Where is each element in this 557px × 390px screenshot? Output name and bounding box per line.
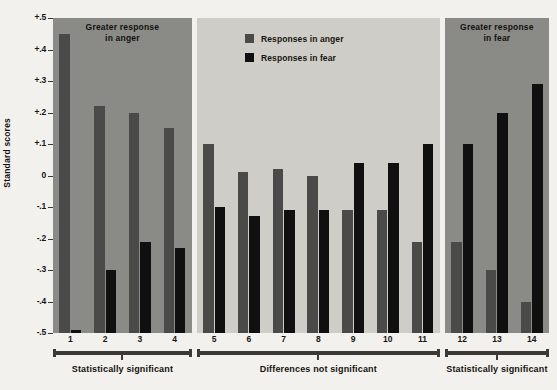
- bracket-center-tick: [121, 355, 123, 360]
- bar-5-fear: [215, 207, 225, 333]
- x-tick-label: 2: [95, 334, 115, 344]
- y-tick-label: 0: [18, 170, 46, 182]
- x-tick-label: 11: [413, 334, 433, 344]
- x-tick-label: 14: [522, 334, 542, 344]
- bar-4-anger: [164, 128, 174, 333]
- bar-7-anger: [273, 169, 283, 333]
- panel-title-left: Greater responsein anger: [53, 22, 192, 44]
- y-tick-label: +.4: [18, 44, 46, 56]
- bracket-left: [53, 349, 192, 357]
- y-tick-label: -.2: [18, 233, 46, 245]
- bracket-cap-right: [189, 349, 192, 357]
- x-tick-label: 7: [274, 334, 294, 344]
- bar-10-anger: [377, 210, 387, 333]
- bar-11-anger: [412, 242, 422, 333]
- group-label-right: Statistically significant: [446, 364, 547, 374]
- bar-13-fear: [497, 113, 507, 334]
- x-tick-label: 13: [487, 334, 507, 344]
- panel-title-line-2: in fear: [445, 33, 549, 44]
- x-tick-label: 10: [378, 334, 398, 344]
- bar-14-fear: [532, 84, 542, 333]
- bar-13-anger: [486, 270, 496, 333]
- legend-swatch-icon: [245, 34, 254, 43]
- bar-12-fear: [463, 144, 473, 333]
- bar-1-anger: [59, 34, 69, 333]
- legend-item-anger: Responses in anger: [245, 31, 344, 46]
- y-tick-label: -.5: [18, 327, 46, 339]
- y-axis-title: Standard scores: [2, 118, 16, 188]
- bar-10-fear: [388, 163, 398, 333]
- chart-legend: Responses in angerResponses in fear: [245, 31, 344, 69]
- legend-label: Responses in anger: [261, 34, 344, 44]
- x-tick-label: 5: [204, 334, 224, 344]
- bracket-cap-left: [53, 349, 56, 357]
- x-tick-label: 12: [452, 334, 472, 344]
- y-tick-label: -.1: [18, 201, 46, 213]
- bracket-middle: [197, 349, 440, 357]
- bracket-center-tick: [317, 355, 319, 360]
- bar-2-fear: [106, 270, 116, 333]
- bar-1-fear: [71, 330, 81, 333]
- x-axis-labels: 1234567891011121314: [53, 334, 549, 348]
- x-tick-label: 3: [130, 334, 150, 344]
- x-tick-label: 9: [343, 334, 363, 344]
- bar-8-anger: [307, 176, 317, 334]
- bar-6-anger: [238, 172, 248, 333]
- panel-title-line-1: Greater response: [53, 22, 192, 33]
- bracket-cap-right: [437, 349, 440, 357]
- x-tick-label: 8: [308, 334, 328, 344]
- legend-swatch-icon: [245, 53, 254, 62]
- bracket-center-tick: [496, 355, 498, 360]
- bar-chart: Standard scores +.5+.4+.3+.2+.10-.1-.2-.…: [0, 0, 557, 390]
- bar-6-fear: [249, 216, 259, 333]
- group-brackets: [53, 349, 549, 361]
- y-tick-label: +.3: [18, 75, 46, 87]
- bar-5-anger: [203, 144, 213, 333]
- bracket-cap-right: [546, 349, 549, 357]
- panel-title-line-1: Greater response: [445, 22, 549, 33]
- x-tick-label: 6: [239, 334, 259, 344]
- legend-item-fear: Responses in fear: [245, 50, 344, 65]
- panel-title-line-2: in anger: [53, 33, 192, 44]
- bracket-cap-left: [445, 349, 448, 357]
- bar-9-anger: [342, 210, 352, 333]
- bar-2-anger: [94, 106, 104, 333]
- x-tick-label: 4: [165, 334, 185, 344]
- bar-12-anger: [451, 242, 461, 333]
- bracket-cap-left: [197, 349, 200, 357]
- bar-8-fear: [319, 210, 329, 333]
- x-tick-label: 1: [60, 334, 80, 344]
- group-significance-labels: Statistically significantDifferences not…: [53, 364, 549, 380]
- y-tick-label: +.5: [18, 12, 46, 24]
- bar-3-fear: [140, 242, 150, 333]
- bar-14-anger: [521, 302, 531, 334]
- group-label-left: Statistically significant: [72, 364, 173, 374]
- y-tick-label: +.2: [18, 107, 46, 119]
- bracket-right: [445, 349, 549, 357]
- bar-9-fear: [354, 163, 364, 333]
- y-tick-label: -.3: [18, 264, 46, 276]
- y-tick-label: +.1: [18, 138, 46, 150]
- bar-4-fear: [175, 248, 185, 333]
- y-tick-label: -.4: [18, 296, 46, 308]
- bar-11-fear: [423, 144, 433, 333]
- legend-label: Responses in fear: [261, 53, 336, 63]
- panel-title-right: Greater responsein fear: [445, 22, 549, 44]
- bar-3-anger: [129, 113, 139, 334]
- bar-7-fear: [284, 210, 294, 333]
- group-label-middle: Differences not significant: [260, 364, 377, 374]
